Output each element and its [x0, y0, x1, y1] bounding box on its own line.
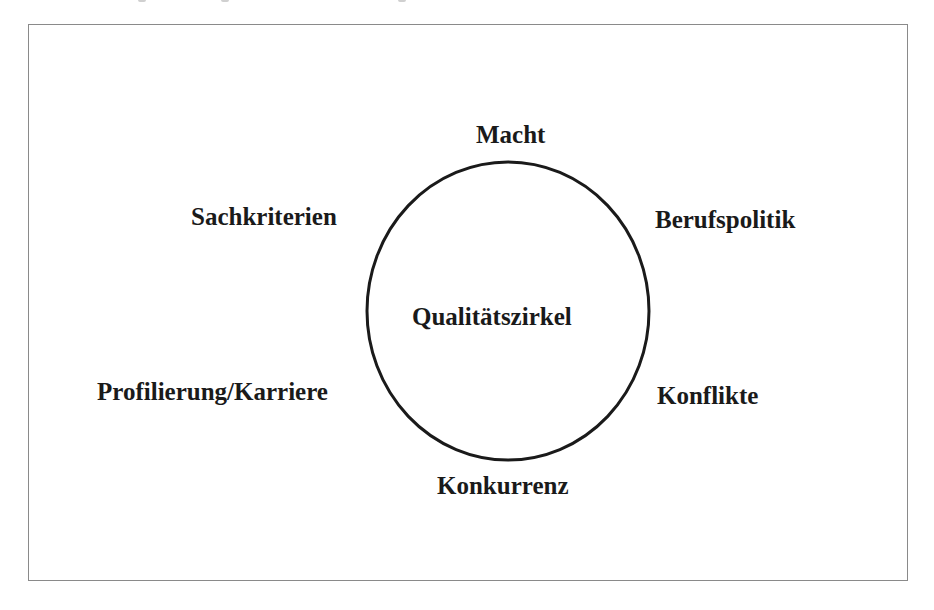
- label-konflikte: Konflikte: [657, 383, 758, 408]
- center-label-qualitaetszirkel: Qualitätszirkel: [412, 304, 572, 329]
- label-profilierung-karriere: Profilierung/Karriere: [97, 379, 328, 404]
- label-konkurrenz: Konkurrenz: [437, 473, 569, 498]
- label-sachkriterien: Sachkriterien: [191, 204, 337, 229]
- label-macht: Macht: [476, 122, 545, 147]
- label-berufspolitik: Berufspolitik: [655, 207, 795, 232]
